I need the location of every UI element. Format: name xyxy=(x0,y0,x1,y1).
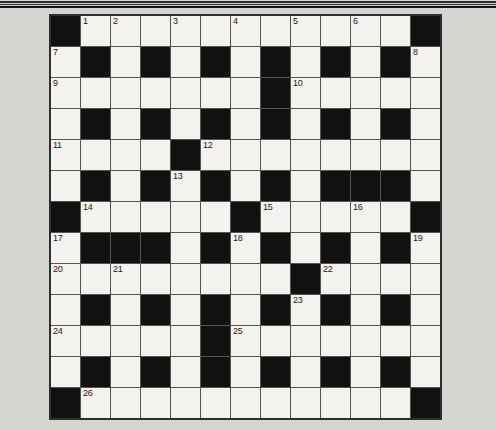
cell-r0c4[interactable]: 3 xyxy=(171,16,200,46)
cell-r6c9[interactable] xyxy=(321,202,350,232)
cell-r2c0[interactable]: 9 xyxy=(51,78,80,108)
cell-r7c0[interactable]: 17 xyxy=(51,233,80,263)
cell-r4c9[interactable] xyxy=(321,140,350,170)
cell-r1c12[interactable]: 8 xyxy=(411,47,440,77)
cell-r12c6[interactable] xyxy=(231,388,260,418)
cell-r3c2[interactable] xyxy=(111,109,140,139)
cell-r11c8[interactable] xyxy=(291,357,320,387)
cell-r1c10[interactable] xyxy=(351,47,380,77)
cell-r6c7[interactable]: 15 xyxy=(261,202,290,232)
cell-r0c11[interactable] xyxy=(381,16,410,46)
cell-r6c5[interactable] xyxy=(201,202,230,232)
cell-r6c4[interactable] xyxy=(171,202,200,232)
cell-r1c2[interactable] xyxy=(111,47,140,77)
cell-r11c4[interactable] xyxy=(171,357,200,387)
cell-r0c7[interactable] xyxy=(261,16,290,46)
cell-r4c12[interactable] xyxy=(411,140,440,170)
cell-r8c4[interactable] xyxy=(171,264,200,294)
cell-r0c9[interactable] xyxy=(321,16,350,46)
cell-r12c4[interactable] xyxy=(171,388,200,418)
cell-r1c8[interactable] xyxy=(291,47,320,77)
cell-r12c1[interactable]: 26 xyxy=(81,388,110,418)
cell-r2c9[interactable] xyxy=(321,78,350,108)
cell-r10c12[interactable] xyxy=(411,326,440,356)
cell-r10c9[interactable] xyxy=(321,326,350,356)
cell-r4c0[interactable]: 11 xyxy=(51,140,80,170)
cell-r10c8[interactable] xyxy=(291,326,320,356)
cell-r5c12[interactable] xyxy=(411,171,440,201)
cell-r2c12[interactable] xyxy=(411,78,440,108)
cell-r4c8[interactable] xyxy=(291,140,320,170)
cell-r10c3[interactable] xyxy=(141,326,170,356)
cell-r10c11[interactable] xyxy=(381,326,410,356)
cell-r2c10[interactable] xyxy=(351,78,380,108)
cell-r10c6[interactable]: 25 xyxy=(231,326,260,356)
cell-r6c10[interactable]: 16 xyxy=(351,202,380,232)
cell-r8c6[interactable] xyxy=(231,264,260,294)
cell-r9c0[interactable] xyxy=(51,295,80,325)
cell-r8c2[interactable]: 21 xyxy=(111,264,140,294)
cell-r12c8[interactable] xyxy=(291,388,320,418)
cell-r4c6[interactable] xyxy=(231,140,260,170)
cell-r12c9[interactable] xyxy=(321,388,350,418)
cell-r0c5[interactable] xyxy=(201,16,230,46)
cell-r4c7[interactable] xyxy=(261,140,290,170)
cell-r1c4[interactable] xyxy=(171,47,200,77)
cell-r8c9[interactable]: 22 xyxy=(321,264,350,294)
cell-r2c6[interactable] xyxy=(231,78,260,108)
cell-r8c3[interactable] xyxy=(141,264,170,294)
cell-r8c11[interactable] xyxy=(381,264,410,294)
cell-r4c10[interactable] xyxy=(351,140,380,170)
cell-r1c6[interactable] xyxy=(231,47,260,77)
cell-r6c2[interactable] xyxy=(111,202,140,232)
cell-r1c0[interactable]: 7 xyxy=(51,47,80,77)
cell-r0c3[interactable] xyxy=(141,16,170,46)
cell-r3c10[interactable] xyxy=(351,109,380,139)
cell-r6c8[interactable] xyxy=(291,202,320,232)
cell-r0c10[interactable]: 6 xyxy=(351,16,380,46)
cell-r8c10[interactable] xyxy=(351,264,380,294)
cell-r12c5[interactable] xyxy=(201,388,230,418)
cell-r11c10[interactable] xyxy=(351,357,380,387)
cell-r12c11[interactable] xyxy=(381,388,410,418)
cell-r12c7[interactable] xyxy=(261,388,290,418)
cell-r11c2[interactable] xyxy=(111,357,140,387)
cell-r9c10[interactable] xyxy=(351,295,380,325)
cell-r4c11[interactable] xyxy=(381,140,410,170)
cell-r4c3[interactable] xyxy=(141,140,170,170)
cell-r5c4[interactable]: 13 xyxy=(171,171,200,201)
cell-r10c1[interactable] xyxy=(81,326,110,356)
cell-r10c10[interactable] xyxy=(351,326,380,356)
cell-r7c4[interactable] xyxy=(171,233,200,263)
cell-r6c1[interactable]: 14 xyxy=(81,202,110,232)
cell-r8c12[interactable] xyxy=(411,264,440,294)
cell-r10c4[interactable] xyxy=(171,326,200,356)
cell-r8c7[interactable] xyxy=(261,264,290,294)
cell-r7c12[interactable]: 19 xyxy=(411,233,440,263)
cell-r0c6[interactable]: 4 xyxy=(231,16,260,46)
cell-r9c2[interactable] xyxy=(111,295,140,325)
cell-r12c10[interactable] xyxy=(351,388,380,418)
cell-r6c11[interactable] xyxy=(381,202,410,232)
cell-r5c0[interactable] xyxy=(51,171,80,201)
cell-r0c8[interactable]: 5 xyxy=(291,16,320,46)
cell-r3c0[interactable] xyxy=(51,109,80,139)
cell-r2c3[interactable] xyxy=(141,78,170,108)
cell-r2c4[interactable] xyxy=(171,78,200,108)
cell-r3c12[interactable] xyxy=(411,109,440,139)
cell-r2c11[interactable] xyxy=(381,78,410,108)
cell-r2c2[interactable] xyxy=(111,78,140,108)
cell-r5c8[interactable] xyxy=(291,171,320,201)
cell-r6c3[interactable] xyxy=(141,202,170,232)
cell-r12c3[interactable] xyxy=(141,388,170,418)
cell-r5c2[interactable] xyxy=(111,171,140,201)
cell-r3c8[interactable] xyxy=(291,109,320,139)
cell-r10c0[interactable]: 24 xyxy=(51,326,80,356)
cell-r9c12[interactable] xyxy=(411,295,440,325)
cell-r10c2[interactable] xyxy=(111,326,140,356)
cell-r10c7[interactable] xyxy=(261,326,290,356)
cell-r7c8[interactable] xyxy=(291,233,320,263)
cell-r4c5[interactable]: 12 xyxy=(201,140,230,170)
cell-r2c5[interactable] xyxy=(201,78,230,108)
cell-r3c4[interactable] xyxy=(171,109,200,139)
